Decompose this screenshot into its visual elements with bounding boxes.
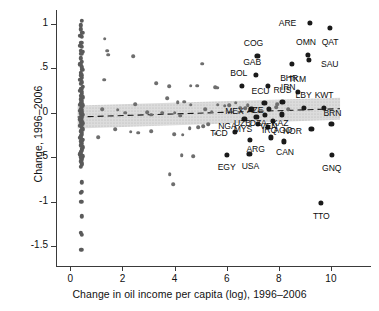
y-tick-label: -1.5 [8,239,48,250]
point-label-tkm: TKM [288,74,306,84]
data-point [172,133,176,137]
data-point [201,125,205,129]
point-label-egy: EGY [218,162,236,172]
data-point [179,114,183,118]
point-label-qat: QAT [322,37,339,47]
point-label-mys: MYS [234,124,252,134]
data-point [196,125,200,129]
data-point [136,131,140,135]
y-tick-label: -.5 [8,150,48,161]
x-tick-mark [122,266,123,271]
x-tick-label: 2 [107,273,137,284]
data-point [165,97,169,101]
data-point [176,101,180,105]
data-point [215,86,219,90]
x-tick-label: 10 [316,273,346,284]
point-label-ecu: ECU [252,86,270,96]
data-point [189,84,193,88]
point-label-tcd: TCD [210,128,227,138]
point-label-arg: ARG [246,144,264,154]
data-point [100,108,104,112]
x-tick-mark [70,266,71,271]
data-point [189,103,193,107]
data-point [274,105,278,109]
data-point [181,133,185,137]
data-point [160,111,164,115]
data-point [97,135,101,139]
point-label-aze: AZE [247,105,263,115]
point-label-omn: OMN [296,37,316,47]
data-point [206,122,210,126]
data-point [196,84,200,88]
point-label-gnq: GNQ [322,163,341,173]
data-point [116,108,120,112]
y-tick-label: .5 [8,61,48,72]
data-point [102,78,106,82]
x-tick-mark [175,266,176,271]
data-point [171,182,175,186]
point-label-brn: BRN [323,108,341,118]
x-tick-label: 0 [55,273,85,284]
point-label-bol: BOL [230,68,247,78]
point-label-tto: TTO [313,211,330,221]
data-point [192,154,196,158]
data-point [123,111,127,115]
data-point [113,127,117,131]
point-label-usa: USA [242,161,259,171]
x-axis-line [56,266,371,267]
point-label-ven: VEN [260,121,277,131]
x-tick-mark [279,266,280,271]
x-tick-label: 4 [160,273,190,284]
data-point [168,173,172,177]
point-label-can: CAN [276,147,294,157]
point-label-nor: NOR [283,126,302,136]
point-label-mex: MEX [225,106,243,116]
point-label-cog: COG [244,38,263,48]
data-point [276,102,280,106]
point-label-gab: GAB [243,57,261,67]
data-point [180,153,184,157]
y-tick-label: -1 [8,195,48,206]
data-point [132,55,136,59]
x-tick-label: 6 [212,273,242,284]
data-point [168,84,172,88]
x-axis-label: Change in oil income per capita (log), 1… [0,288,379,300]
data-point [155,81,159,85]
data-point [149,129,153,133]
data-point [133,102,137,106]
data-point [234,101,238,105]
data-point [173,111,177,115]
data-point [200,62,204,66]
x-tick-mark [331,266,332,271]
y-tick-label: 1 [8,17,48,28]
scatter-plot-figure: Change, 1996–2006 Change in oil income p… [0,0,379,311]
x-tick-label: 8 [264,273,294,284]
data-point [103,37,107,41]
point-label-are: ARE [279,18,296,28]
y-tick-label: 0 [8,106,48,117]
point-label-lby: LBY [296,90,312,100]
data-point [286,107,290,111]
x-tick-mark [227,266,228,271]
data-point [149,113,153,117]
data-point [188,126,192,130]
point-label-rus: RUS [274,85,292,95]
data-point [210,110,214,114]
plot-area: AREQATCOGOMNSAUBHRGABBOLIRNTKMECURUSLBYK… [56,8,370,266]
point-label-sau: SAU [321,59,338,69]
point-label-kwt: KWT [315,90,334,100]
data-point [204,108,208,112]
data-point [216,103,220,107]
data-point [129,130,133,134]
data-point [182,100,186,104]
data-point [107,53,111,57]
